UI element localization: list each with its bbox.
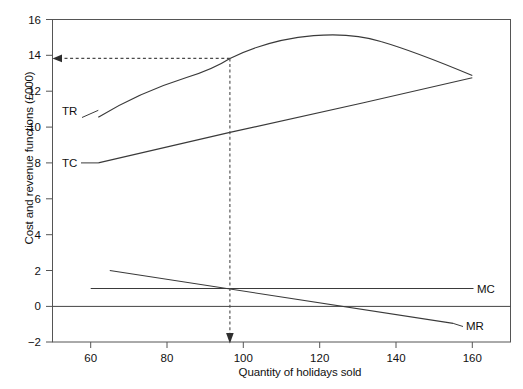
y-tick-label: 2 [35,265,41,277]
x-tick-label: 120 [310,352,329,364]
x-axis-ticks [91,342,473,348]
series-line-mr [110,271,453,324]
mr-label-leader-line [453,323,463,326]
y-axis-title: Cost and revenue functions (£000) [23,43,35,273]
figure-container: 16 14 12 10 8 6 4 2 0 −2 60 80 100 120 1… [0,0,523,389]
y-tick-label: 0 [35,300,41,312]
chart-plot-area: 16 14 12 10 8 6 4 2 0 −2 60 80 100 120 1… [0,0,523,389]
series-label-mr: MR [466,320,484,332]
series-label-tc: TC [62,157,77,169]
y-tick-label: 4 [35,229,42,241]
x-tick-label: 160 [463,352,482,364]
tr-label-leader-line [82,110,98,117]
y-tick-label: 16 [28,14,41,26]
total-revenue-arrowhead-icon [53,55,63,63]
x-axis-tick-labels: 60 80 100 120 140 160 [84,352,482,364]
x-axis-title: Quantity of holidays sold [150,366,450,378]
y-axis-ticks [46,20,53,343]
x-tick-label: 80 [161,352,174,364]
y-tick-label: 6 [35,193,41,205]
plot-frame [53,20,511,343]
series-label-mc: MC [477,283,495,295]
series-label-tr: TR [62,105,77,117]
y-tick-label: 8 [35,157,41,169]
y-tick-label: −2 [28,336,41,348]
series-line-tc [98,78,472,163]
x-tick-label: 100 [234,352,253,364]
series-line-tr [98,35,472,118]
x-tick-label: 140 [386,352,405,364]
x-tick-label: 60 [84,352,97,364]
